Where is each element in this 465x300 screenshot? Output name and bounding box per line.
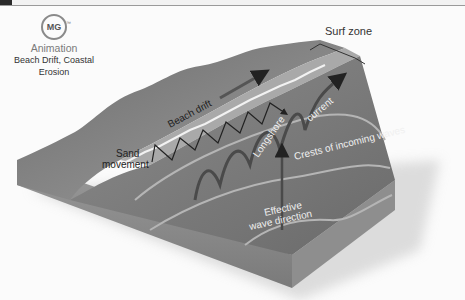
sand-movement-label-2: movement (102, 159, 149, 170)
surf-zone-label: Surf zone (325, 25, 372, 37)
sand-movement-label-1: Sand (116, 148, 139, 159)
beach-drift-diagram: Surf zone Beach drift Sand movement Long… (0, 0, 465, 300)
